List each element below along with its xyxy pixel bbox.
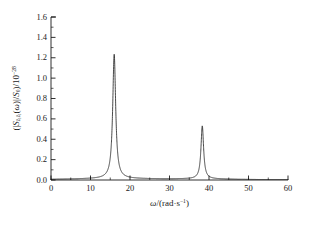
axis-lines (51, 17, 288, 180)
y-tick-label: 1.0 (25, 73, 47, 83)
x-tick-label: 50 (239, 183, 259, 193)
x-tick-label: 60 (278, 183, 298, 193)
y-tick-label: 0.8 (25, 93, 47, 103)
spectral-density-chart: (|Sz̈1z̈1(ω)|/S0)/10−28 ω/(rad·s−1) 0.00… (0, 0, 311, 225)
x-tick-label: 10 (81, 183, 101, 193)
y-tick-label: 1.4 (25, 32, 47, 42)
y-tick-label: 0.6 (25, 113, 47, 123)
spectrum-curve (51, 54, 288, 179)
x-tick-label: 20 (120, 183, 140, 193)
y-tick-label: 1.6 (25, 12, 47, 22)
y-tick-label: 0.4 (25, 134, 47, 144)
x-tick-label: 40 (199, 183, 219, 193)
y-axis-ticks (51, 17, 56, 180)
x-tick-label: 30 (160, 183, 180, 193)
x-axis-label: ω/(rad·s−1) (51, 198, 288, 208)
y-tick-label: 1.2 (25, 52, 47, 62)
y-tick-label: 0.2 (25, 154, 47, 164)
x-tick-label: 0 (41, 183, 61, 193)
